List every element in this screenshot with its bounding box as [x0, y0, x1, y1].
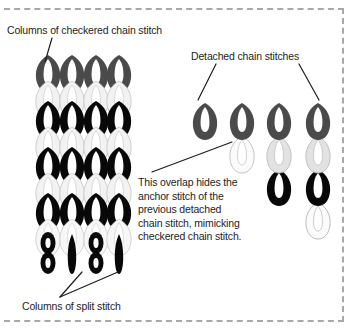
left-stitch-columns: [36, 55, 131, 274]
detached-stitch-column: [230, 103, 254, 173]
stitch-artwork: [0, 0, 356, 336]
split-leader-line-right: [60, 272, 118, 297]
detached-leader-line-left: [198, 64, 216, 100]
label-columns-of-checkered-chain-stitch: Columns of checkered chain stitch: [7, 24, 162, 38]
overlap-leader-line: [152, 142, 232, 172]
detached-stitch-column: [306, 103, 330, 239]
split-leader-line-left: [60, 272, 82, 297]
label-overlap-explanation: This overlap hides the anchor stitch of …: [138, 176, 244, 244]
detached-stitch-column: [267, 103, 291, 206]
stitch-diagram-figure: Columns of checkered chain stitch Detach…: [0, 0, 356, 336]
label-columns-of-split-stitch: Columns of split stitch: [22, 300, 121, 314]
detached-leader-line-right: [299, 64, 319, 100]
detached-stitch-column: [193, 103, 217, 140]
label-detached-chain-stitches: Detached chain stitches: [191, 50, 299, 64]
